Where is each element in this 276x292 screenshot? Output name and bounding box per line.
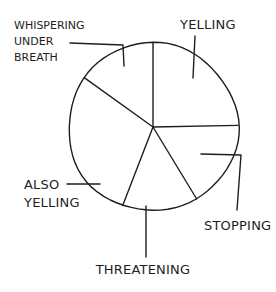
label-line: ALSO	[24, 177, 59, 192]
label-line: THREATENING	[95, 262, 191, 277]
label-line: BREATH	[14, 51, 58, 64]
label-line: YELLING	[179, 17, 236, 32]
label-stopping: STOPPING	[204, 218, 271, 233]
label-line: WHISPERING	[14, 19, 85, 32]
label-threatening: THREATENING	[95, 262, 191, 277]
label-line: YELLING	[23, 195, 80, 210]
label-also-yelling: ALSOYELLING	[23, 177, 80, 210]
pie-slice-yelling	[153, 43, 238, 127]
label-yelling: YELLING	[179, 17, 236, 32]
label-whispering-under-breath: WHISPERINGUNDERBREATH	[14, 19, 85, 64]
label-line: STOPPING	[204, 218, 271, 233]
pie-chart-svg: YELLINGSTOPPINGTHREATENINGALSOYELLINGWHI…	[0, 0, 276, 292]
label-line: UNDER	[14, 35, 54, 48]
pie-chart: YELLINGSTOPPINGTHREATENINGALSOYELLINGWHI…	[0, 0, 276, 292]
